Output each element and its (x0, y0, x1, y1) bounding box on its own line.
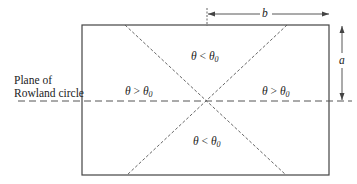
dimension-b-label: b (262, 7, 268, 20)
operator: < (197, 50, 209, 62)
b-arrowhead-left (208, 12, 215, 17)
region-left-label: θ > θ0 (125, 85, 153, 101)
region-bottom-label: θ < θ0 (193, 135, 221, 151)
subscript: 0 (217, 140, 221, 149)
operator: > (131, 85, 143, 97)
subscript: 0 (286, 90, 290, 99)
dimension-a-label: a (339, 54, 345, 67)
subscript: 0 (215, 55, 219, 64)
plane-label-line1: Plane of (14, 74, 52, 87)
plane-label-line2: Rowland circle (14, 87, 84, 100)
a-arrowhead-bottom (340, 93, 345, 100)
region-right-label: θ > θ0 (262, 85, 290, 101)
subscript: 0 (149, 90, 153, 99)
b-arrowhead-right (322, 12, 329, 17)
a-arrowhead-top (340, 26, 345, 33)
operator: > (268, 85, 280, 97)
region-top-label: θ < θ0 (191, 50, 219, 66)
operator: < (199, 135, 211, 147)
